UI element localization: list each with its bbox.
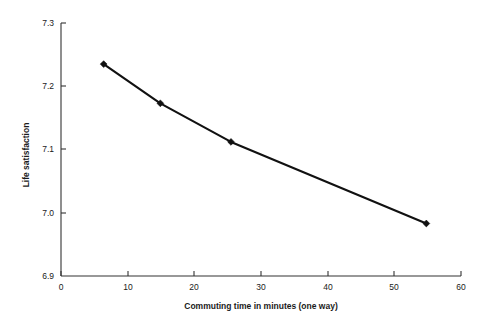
x-tick-label-40: 40	[323, 282, 333, 292]
y-axis-title: Life satisfaction	[21, 123, 31, 188]
series-line-life-satisfaction	[104, 64, 427, 223]
y-tick-label-6.9: 6.9	[42, 271, 54, 281]
y-tick-label-7.3: 7.3	[42, 18, 54, 28]
x-tick-label-60: 60	[456, 282, 466, 292]
x-tick-label-20: 20	[189, 282, 199, 292]
y-tick-label-7.2: 7.2	[42, 81, 54, 91]
x-tick-label-10: 10	[123, 282, 133, 292]
x-tick-label-0: 0	[59, 282, 64, 292]
chart-figure: Life satisfaction 7.3 7.2 7.1 7.0 6.9 0 …	[0, 0, 497, 323]
x-axis-title: Commuting time in minutes (one way)	[184, 301, 338, 311]
y-tick-label-7.1: 7.1	[42, 144, 54, 154]
x-tick-label-30: 30	[256, 282, 266, 292]
y-tick-label-7.0: 7.0	[42, 208, 54, 218]
x-tick-label-50: 50	[389, 282, 399, 292]
line-chart-plot: Life satisfaction 7.3 7.2 7.1 7.0 6.9 0 …	[0, 0, 497, 323]
data-point-marker	[423, 220, 430, 227]
series-markers-group	[100, 61, 429, 227]
